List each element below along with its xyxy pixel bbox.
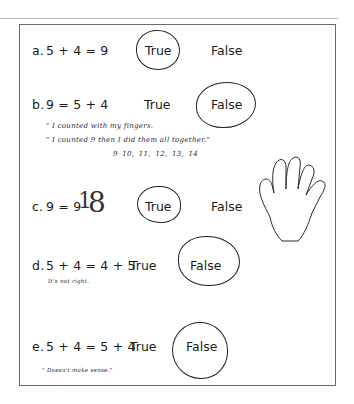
item-e-label: e. xyxy=(32,339,44,354)
student-note: " I counted with my fingers. xyxy=(46,122,153,130)
student-counting: 9 10, 11, 12, 13, 14 xyxy=(113,150,198,158)
item-b-equation: 9 = 5 + 4 xyxy=(46,97,109,112)
item-d-label: d. xyxy=(32,258,44,273)
item-c-false[interactable]: False xyxy=(211,199,242,214)
item-d-equation: 5 + 4 = 4 + 5 xyxy=(46,258,136,273)
item-e-true[interactable]: True xyxy=(130,339,157,354)
item-b-label: b. xyxy=(32,97,44,112)
student-note: " Doesn't make sense." xyxy=(42,367,113,373)
hand-outline-drawing xyxy=(258,155,336,245)
item-c-equation: 9 = 9 xyxy=(46,199,81,214)
item-d-true[interactable]: True xyxy=(130,258,157,273)
item-d-false[interactable]: False xyxy=(190,258,221,273)
item-e-false[interactable]: False xyxy=(186,339,217,354)
item-b-false[interactable]: False xyxy=(211,97,242,112)
item-a-true[interactable]: True xyxy=(145,43,172,58)
student-note: " I counted 9 then I did them all togeth… xyxy=(46,136,210,144)
item-a-equation: 5 + 4 = 9 xyxy=(46,43,109,58)
item-c-true[interactable]: True xyxy=(145,199,172,214)
item-b-true[interactable]: True xyxy=(144,97,171,112)
student-note: It's not right. xyxy=(48,278,89,284)
top-rule xyxy=(0,18,338,19)
item-e-equation: 5 + 4 = 5 + 4 xyxy=(46,339,136,354)
handwritten-eight: 8 xyxy=(88,186,106,219)
item-c-label: c. xyxy=(32,199,43,214)
item-a-label: a. xyxy=(32,43,44,58)
item-a-false[interactable]: False xyxy=(211,43,242,58)
